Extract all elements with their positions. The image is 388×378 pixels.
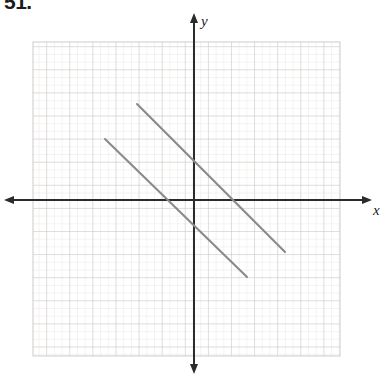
x-axis-label: x (372, 202, 380, 218)
y-axis-label: y (199, 13, 208, 29)
y-axis-bottom-arrowhead (190, 364, 198, 374)
figure-container: 51. y x (0, 0, 388, 378)
x-axis-right-arrowhead (362, 196, 372, 204)
coordinate-plane-graphic: y x (0, 0, 388, 378)
y-axis-top-arrowhead (190, 13, 198, 23)
x-axis-left-arrowhead (4, 196, 14, 204)
